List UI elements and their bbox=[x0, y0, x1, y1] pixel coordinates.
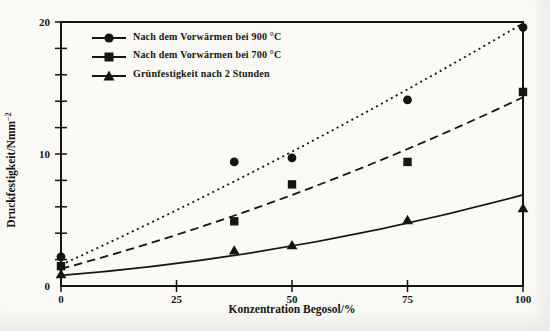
legend-label: Nach dem Vorwärmen bei 900 °C bbox=[133, 31, 281, 42]
svg-text:100: 100 bbox=[515, 293, 532, 305]
svg-text:75: 75 bbox=[402, 293, 414, 305]
legend-label: Nach dem Vorwärmen bei 700 °C bbox=[133, 49, 281, 60]
svg-text:20: 20 bbox=[39, 16, 51, 28]
legend-label: Grünfestigkeit nach 2 Stunden bbox=[133, 68, 270, 79]
square-marker-icon bbox=[92, 49, 126, 61]
legend-item-900c: Nach dem Vorwärmen bei 900 °C bbox=[92, 30, 281, 43]
legend-item-green-strength: Grünfestigkeit nach 2 Stunden bbox=[92, 67, 281, 80]
svg-text:10: 10 bbox=[39, 148, 51, 160]
legend-item-700c: Nach dem Vorwärmen bei 700 °C bbox=[92, 49, 281, 62]
triangle-marker-icon bbox=[92, 68, 126, 80]
chart-figure: 010200255075100 Druckfestigkeit/Nmm−2 Ko… bbox=[0, 0, 550, 331]
y-axis-label: Druckfestigkeit/Nmm−2 bbox=[4, 112, 18, 227]
svg-text:25: 25 bbox=[171, 293, 183, 305]
circle-marker-icon bbox=[92, 30, 126, 42]
svg-text:0: 0 bbox=[58, 293, 64, 305]
x-axis-label: Konzentration Begosol/% bbox=[229, 303, 356, 316]
legend: Nach dem Vorwärmen bei 900 °C Nach dem V… bbox=[92, 30, 281, 86]
svg-text:0: 0 bbox=[45, 280, 51, 292]
